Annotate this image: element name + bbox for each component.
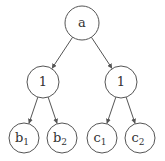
node-label-main: b	[15, 130, 23, 145]
node-right: 1	[105, 66, 137, 98]
node-c2: c2	[125, 123, 155, 153]
tree-diagram: a11b1b2c1c2	[0, 0, 165, 161]
node-label-main: 1	[39, 74, 47, 89]
node-left: 1	[27, 66, 59, 98]
node-label-subscript: 1	[101, 137, 107, 147]
edge-left-to-b2	[48, 97, 57, 124]
node-b1: b1	[9, 123, 39, 153]
node-c1: c1	[87, 123, 117, 153]
node-root: a	[65, 6, 99, 40]
edge-left-to-b1	[29, 97, 38, 124]
node-label-subscript: 2	[139, 137, 145, 147]
node-label: 1	[117, 74, 125, 89]
edge-root-to-right	[91, 37, 112, 68]
node-label-main: a	[78, 15, 86, 30]
node-label: 1	[39, 74, 47, 89]
node-label-main: c	[93, 130, 100, 145]
node-label-main: 1	[117, 74, 125, 89]
node-b2: b2	[47, 123, 77, 153]
edge-right-to-c1	[107, 97, 116, 124]
node-label: a	[78, 15, 86, 30]
node-label-subscript: 2	[61, 137, 67, 147]
node-label-main: c	[131, 130, 138, 145]
node-label-main: b	[53, 130, 61, 145]
edge-root-to-left	[52, 37, 73, 68]
node-label-subscript: 1	[23, 137, 29, 147]
edge-right-to-c2	[126, 97, 135, 124]
